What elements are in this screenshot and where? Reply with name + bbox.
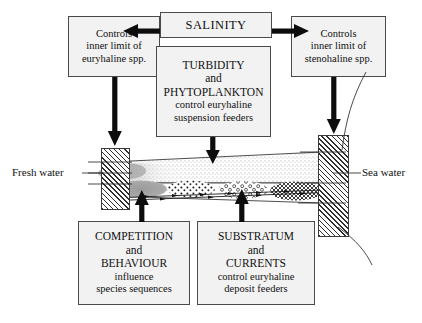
competition-line-5: species sequences bbox=[96, 283, 172, 295]
turbidity-line-1: TURBIDITY bbox=[183, 59, 245, 73]
left-box-line-3: euryhaline spp. bbox=[82, 53, 146, 65]
left-controls-box[interactable]: Controls inner limit of euryhaline spp. bbox=[68, 16, 160, 77]
turbidity-line-3: PHYTOPLANKTON bbox=[164, 86, 264, 100]
right-box-line-3: stenohaline spp. bbox=[305, 53, 373, 65]
right-controls-box[interactable]: Controls inner limit of stenohaline spp. bbox=[291, 16, 386, 77]
substratum-box[interactable]: SUBSTRATUM and CURRENTS control euryhali… bbox=[197, 221, 315, 305]
sea-water-shore-block bbox=[318, 135, 349, 237]
right-box-line-2: inner limit of bbox=[311, 40, 366, 52]
competition-box[interactable]: COMPETITION and BEHAVIOUR influence spec… bbox=[78, 221, 190, 305]
turbidity-line-5: suspension feeders bbox=[174, 112, 253, 124]
competition-line-3: BEHAVIOUR bbox=[101, 257, 167, 271]
salinity-box[interactable]: SALINITY bbox=[160, 12, 272, 38]
substratum-line-4: control euryhaline bbox=[218, 271, 295, 283]
turbidity-line-4: control euryhaline bbox=[175, 99, 252, 111]
substratum-line-1: SUBSTRATUM bbox=[218, 230, 294, 244]
competition-line-1: COMPETITION bbox=[95, 230, 173, 244]
estuary-surface-layer bbox=[98, 152, 322, 183]
left-box-line-2: inner limit of bbox=[86, 40, 141, 52]
right-box-line-1: Controls bbox=[320, 28, 356, 40]
competition-line-2: and bbox=[126, 244, 143, 258]
turbidity-line-2: and bbox=[205, 72, 222, 86]
substratum-line-3: CURRENTS bbox=[226, 257, 286, 271]
diagram-canvas: SALINITY Controls inner limit of euryhal… bbox=[0, 0, 422, 323]
sea-water-label: Sea water bbox=[362, 166, 405, 178]
competition-line-4: influence bbox=[114, 271, 153, 283]
substratum-line-2: and bbox=[248, 244, 265, 258]
fresh-water-shore-block bbox=[101, 148, 130, 210]
fresh-water-label: Fresh water bbox=[12, 166, 64, 178]
substratum-line-5: deposit feeders bbox=[224, 283, 287, 295]
salinity-label: SALINITY bbox=[186, 18, 247, 33]
left-box-line-1: Controls bbox=[96, 28, 132, 40]
turbidity-box[interactable]: TURBIDITY and PHYTOPLANKTON control eury… bbox=[156, 46, 271, 137]
